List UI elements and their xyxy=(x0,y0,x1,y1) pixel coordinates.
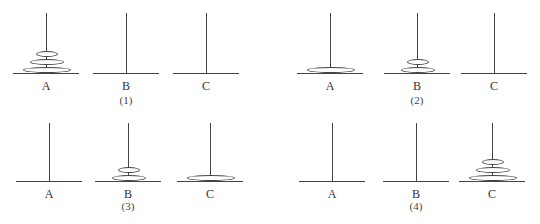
disk-size-1 xyxy=(36,51,58,57)
peg-c-rod xyxy=(494,13,495,73)
disk-size-2 xyxy=(401,67,435,73)
peg-a-rod xyxy=(330,13,331,73)
peg-c-rod xyxy=(210,123,211,181)
peg-label: C xyxy=(200,187,220,202)
disk-size-3 xyxy=(307,67,355,73)
peg-c-base xyxy=(173,73,239,74)
peg-c-base xyxy=(177,181,243,182)
peg-a-rod xyxy=(49,123,50,181)
peg-label: A xyxy=(39,187,59,202)
disk-size-3 xyxy=(187,175,235,181)
disk-size-3 xyxy=(23,67,71,73)
peg-a-base xyxy=(299,181,365,182)
peg-label: C xyxy=(484,79,504,94)
peg-label: B xyxy=(407,79,427,94)
peg-label: B xyxy=(116,79,136,94)
peg-c-rod xyxy=(206,13,207,73)
peg-label: C xyxy=(482,187,502,202)
peg-a-base xyxy=(16,181,82,182)
peg-label: A xyxy=(320,79,340,94)
peg-b-base xyxy=(384,73,450,74)
peg-b-rod xyxy=(126,13,127,73)
panel-number: (1) xyxy=(111,94,141,106)
peg-a-base xyxy=(297,73,363,74)
peg-c-base xyxy=(459,181,525,182)
figure-caption xyxy=(178,212,368,221)
disk-size-1 xyxy=(407,59,429,65)
peg-label: C xyxy=(196,79,216,94)
peg-c-base xyxy=(461,73,527,74)
disk-size-2 xyxy=(476,167,510,173)
disk-size-3 xyxy=(469,175,517,181)
disk-size-2 xyxy=(30,59,64,65)
disk-size-1 xyxy=(482,159,504,165)
peg-a-base xyxy=(13,73,79,74)
disk-size-1 xyxy=(118,167,140,173)
panel-number: (2) xyxy=(402,94,432,106)
peg-b-base xyxy=(93,73,159,74)
peg-label: A xyxy=(36,79,56,94)
panel-number: (4) xyxy=(401,200,431,212)
peg-b-base xyxy=(95,181,161,182)
peg-label: A xyxy=(322,187,342,202)
peg-b-rod xyxy=(416,123,417,181)
peg-a-rod xyxy=(332,123,333,181)
disk-size-2 xyxy=(112,175,146,181)
panel-number: (3) xyxy=(113,200,143,212)
peg-b-base xyxy=(383,181,449,182)
